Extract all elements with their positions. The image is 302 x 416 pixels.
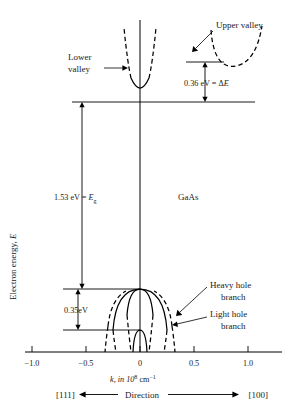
lower-valley-label-line1: Lower	[68, 52, 92, 62]
lower-valley-label-line2: valley	[68, 64, 90, 74]
direction-right-label: [100]	[249, 390, 269, 400]
band-structure-diagram: −1.0 −0.5 0 0.5 1.0 k, in 108 cm−1 Elect…	[0, 0, 302, 416]
heavy-hole-leader-arrow	[176, 287, 207, 316]
light-hole-label-line1: Light hole	[210, 309, 247, 319]
upper-valley-curve	[211, 26, 262, 66]
x-tick-label-2: 0	[138, 359, 142, 368]
direction-center-label: Direction	[125, 390, 159, 400]
material-label: GaAs	[178, 192, 199, 202]
upper-valley-label: Upper valley	[216, 20, 263, 30]
direction-arrow-left	[79, 391, 118, 397]
svg-text:k, in 108 cm−1: k, in 108 cm−1	[110, 374, 156, 384]
x-tick-label-4: 1.0	[243, 359, 253, 368]
x-axis-title-unit-exp: −1	[149, 374, 155, 380]
bandgap-value: 1.53	[54, 193, 68, 202]
x-tick-label-3: 0.5	[189, 359, 199, 368]
light-hole-leader-arrow	[172, 317, 207, 327]
lower-valley-leader-arrow	[104, 65, 128, 70]
delta-e-value: 0.36	[184, 79, 198, 88]
x-axis-title: k, in 108 cm−1	[110, 374, 156, 384]
direction-arrow-right	[168, 391, 239, 397]
x-axis-title-main: k, in 10	[110, 375, 134, 384]
light-hole-curve-dashed-left	[127, 315, 131, 352]
bandgap-label: 1.53 eV = Eg	[54, 193, 97, 204]
delta-e-label: 0.36 eV = ΔE	[184, 79, 229, 88]
upper-valley-leader-arrow	[192, 31, 213, 52]
split-off-label: 0.35eV	[64, 306, 88, 315]
lower-valley-curve-dashed-right	[149, 28, 156, 78]
bandgap-subscript: g	[94, 198, 97, 204]
heavy-hole-curve-dashed-left	[113, 330, 116, 352]
direction-left-label: [111]	[56, 390, 75, 400]
x-tick-label-0: −1.0	[25, 359, 40, 368]
lower-valley-curve-dashed-left	[124, 28, 131, 78]
light-hole-label-line2: branch	[221, 321, 246, 331]
heavy-hole-label-line2: branch	[221, 292, 246, 302]
x-axis-ticks	[32, 346, 248, 352]
heavy-hole-outer-wing-dashed-right	[172, 326, 175, 352]
y-axis-title: Electron energy, E	[8, 233, 18, 300]
heavy-hole-label-line1: Heavy hole	[210, 280, 251, 290]
x-tick-label-1: −0.5	[79, 359, 94, 368]
light-hole-curve-dashed-right	[149, 315, 153, 352]
heavy-hole-curve-dashed-right	[164, 330, 167, 352]
